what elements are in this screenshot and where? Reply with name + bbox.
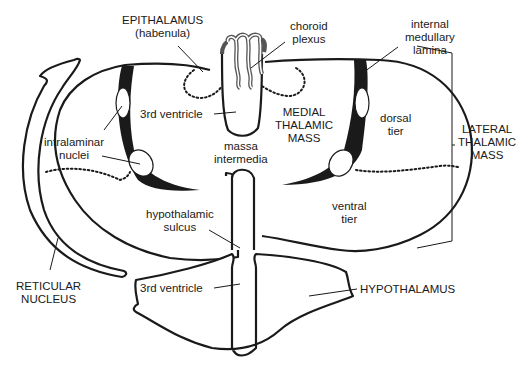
label-dorsal-tier: dorsal tier	[380, 112, 411, 138]
hypothalamus-shape	[134, 254, 353, 356]
lower-ventricle-stem	[232, 170, 254, 250]
left-intralaminar-nucleus-upper	[116, 88, 130, 118]
label-medial-thalamic-mass: MEDIAL THALAMIC MASS	[275, 106, 333, 145]
upper-third-ventricle	[222, 54, 262, 136]
label-internal-medullary-lamina: internal medullary lamina	[405, 18, 455, 57]
label-intralaminar-nuclei: intralaminar nuclei	[44, 136, 104, 162]
label-reticular-nucleus: RETICULAR NUCLEUS	[16, 280, 81, 306]
label-hypothalamus: HYPOTHALAMUS	[360, 283, 455, 296]
label-hypothalamic-sulcus: hypothalamic sulcus	[146, 208, 214, 234]
label-ventral-tier: ventral tier	[332, 200, 367, 226]
label-massa-intermedia: massa intermedia	[214, 140, 268, 166]
label-choroid-plexus: choroid plexus	[290, 20, 328, 46]
label-third-ventricle-upper: 3rd ventricle	[140, 108, 203, 121]
label-lateral-thalamic-mass: LATERAL THALAMIC MASS	[458, 123, 516, 162]
label-epithalamus: EPITHALAMUS (habenula)	[122, 14, 203, 40]
right-intralaminar-nucleus-upper	[355, 88, 369, 118]
label-third-ventricle-lower: 3rd ventricle	[140, 282, 203, 295]
thalamus-diagram	[0, 0, 532, 384]
